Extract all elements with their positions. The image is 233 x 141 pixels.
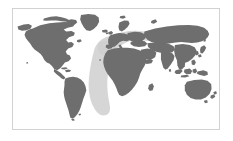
indonesia-group [169, 60, 208, 78]
new-zealand-south [210, 94, 215, 98]
hawaii-island [26, 62, 28, 64]
canadian-arctic-archipelago [43, 16, 69, 21]
caribbean-islands [65, 69, 71, 72]
java [181, 75, 190, 78]
sri-lanka [169, 69, 171, 72]
south-america-group [64, 77, 87, 121]
map-frame [12, 8, 220, 130]
india [161, 52, 175, 70]
sumatra [175, 69, 183, 74]
russia-siberia [144, 25, 209, 44]
falkland-islands [79, 113, 81, 115]
cuba [61, 67, 68, 69]
sakhalin [203, 37, 206, 41]
tasmania [204, 100, 208, 103]
australia [185, 80, 212, 100]
world-map-svg [13, 9, 219, 129]
central-america [54, 69, 66, 80]
scandinavia [118, 20, 129, 31]
sulawesi [193, 69, 198, 74]
japan [200, 45, 206, 53]
north-america [25, 22, 75, 70]
korea-peninsula [195, 51, 199, 55]
asia-group [144, 25, 209, 70]
indochina [177, 59, 185, 69]
south-america [64, 77, 87, 119]
borneo [184, 69, 192, 75]
iceland [102, 29, 108, 32]
new-zealand-north [213, 91, 217, 95]
svalbard [120, 16, 126, 19]
british-isles [108, 31, 113, 35]
novaya-zemlya [151, 19, 157, 23]
greenland [80, 14, 99, 31]
tierra-del-fuego [71, 119, 75, 121]
figure-root [0, 0, 233, 141]
newfoundland [77, 39, 82, 42]
new-guinea [197, 70, 208, 76]
oceania-group [185, 80, 217, 104]
anatolia-levant [130, 40, 147, 47]
japan-south [198, 54, 202, 57]
philippines [191, 60, 196, 66]
madagascar [148, 83, 154, 91]
north-america-group [18, 22, 75, 80]
africa [103, 48, 146, 97]
